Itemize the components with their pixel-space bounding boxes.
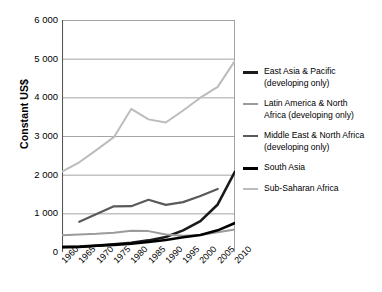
x-tick-label: 1990 [164,245,185,266]
x-tick-label: 1980 [129,245,150,266]
x-tick-label: 1985 [147,245,168,266]
legend-label-line2: (developing only) [264,142,364,154]
legend-label-line2: Africa (developing only) [264,110,354,122]
x-tick-label: 1965 [77,245,98,266]
legend-item[interactable]: Latin America & NorthAfrica (developing … [243,98,382,121]
legend-label: Middle East & North Africa(developing on… [264,130,364,153]
legend-item[interactable]: Middle East & North Africa(developing on… [243,130,382,153]
legend-swatch-icon [243,135,258,137]
legend-label: Latin America & NorthAfrica (developing … [264,98,354,121]
legend-item[interactable]: East Asia & Pacific(developing only) [243,66,382,89]
x-tick-label: 1970 [95,245,116,266]
legend-label-line2: (developing only) [264,78,336,90]
legend-item[interactable]: Sub-Saharan Africa [243,183,382,195]
legend-item[interactable]: South Asia [243,162,382,174]
legend-swatch-icon [243,71,258,74]
legend-label: East Asia & Pacific(developing only) [264,66,336,89]
x-tick-label: 1960 [60,245,81,266]
x-tick-label: 1975 [112,245,133,266]
x-tick-label: 2010 [233,245,254,266]
legend-swatch-icon [243,167,258,170]
x-tick-label: 2005 [216,245,237,266]
x-tick-label: 2000 [198,245,219,266]
legend-swatch-icon [243,188,258,190]
legend-label: Sub-Saharan Africa [264,183,339,195]
legend-label: South Asia [264,162,305,174]
chart-figure: Constant US$ 01 0002 0003 0004 0005 0006… [0,0,382,292]
chart-legend: East Asia & Pacific(developing only)Lati… [243,66,382,203]
legend-swatch-icon [243,103,258,105]
